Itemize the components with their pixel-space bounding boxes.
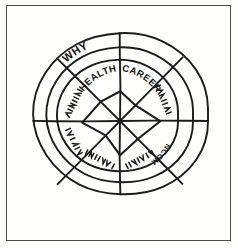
illegible-label-upper-left <box>65 89 82 117</box>
spoke-270deg <box>120 121 121 194</box>
label-health: HEALTH <box>76 62 117 93</box>
spoke-180deg <box>33 121 120 122</box>
spoke-315deg <box>120 121 182 184</box>
label-career: CAREER <box>121 62 164 94</box>
label-group: WHY HEALTH CAREER INCOME <box>0 0 173 167</box>
spoke-90deg <box>120 33 121 121</box>
screenshot-root: WHY HEALTH CAREER INCOME <box>0 0 238 248</box>
wheel-of-life-diagram: WHY HEALTH CAREER INCOME <box>0 0 238 248</box>
illegible-label-left <box>66 128 82 154</box>
